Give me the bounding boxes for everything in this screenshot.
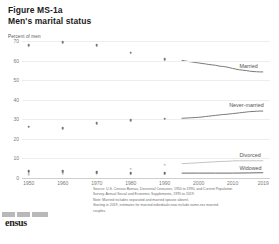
figure-container: Figure MS-1a Men's marital status Percen…	[0, 0, 279, 244]
y-axis-tick-label: 30	[13, 116, 19, 122]
gridline	[22, 100, 270, 101]
data-point-marker	[163, 58, 166, 61]
gridline	[22, 158, 270, 159]
footnote-block: Source: U.S. Census Bureau, Decennial Ce…	[93, 187, 277, 214]
page-title: Men's marital status	[8, 16, 91, 27]
series-line	[182, 161, 264, 164]
y-axis-tick-label: 70	[13, 38, 19, 44]
data-point-marker	[129, 167, 132, 170]
y-axis-tick-label: 40	[13, 97, 19, 103]
y-axis-tick-label: 60	[13, 58, 19, 64]
gridline	[22, 139, 270, 140]
data-point-marker	[95, 122, 98, 125]
x-axis-tick-label: 1960	[57, 180, 68, 186]
title-block: Figure MS-1a Men's marital status	[8, 5, 91, 27]
data-point-marker	[61, 127, 64, 130]
y-axis-tick-label: 20	[13, 136, 19, 142]
census-bureau-logo: ensus	[2, 212, 62, 234]
data-point-marker	[27, 44, 30, 47]
gridline	[22, 41, 270, 42]
data-point-marker	[129, 119, 132, 122]
x-axis-tick-label: 2000	[193, 180, 204, 186]
x-axis-tick-label: 2019	[258, 180, 269, 186]
gridline	[22, 119, 270, 120]
data-point-marker	[95, 171, 98, 174]
logo-wordmark: ensus	[5, 217, 27, 228]
series-label-never-married: Never-married	[229, 102, 263, 108]
x-axis-tick-label: 2010	[227, 180, 238, 186]
data-point-marker	[27, 125, 30, 128]
data-point-marker	[27, 173, 30, 176]
series-label-divorced: Divorced	[239, 152, 260, 158]
data-point-marker	[129, 172, 132, 175]
gridline	[22, 80, 270, 81]
data-point-marker	[95, 44, 98, 47]
series-label-widowed: Widowed	[239, 165, 261, 171]
y-axis-tick-label: 10	[13, 155, 19, 161]
x-axis-tick-label: 1990	[159, 180, 170, 186]
x-axis-tick-label: 1980	[125, 180, 136, 186]
gridline	[22, 61, 270, 62]
y-axis-tick-label: 0	[16, 175, 19, 181]
x-axis-tick-label: 1970	[91, 180, 102, 186]
axis-baseline	[22, 178, 270, 179]
plot-area: 0102030405060701950196019701980199020002…	[22, 41, 270, 178]
series-label-married: Married	[239, 63, 257, 69]
footnote-note-3: couples.	[93, 209, 277, 214]
data-point-marker	[129, 51, 132, 54]
data-point-marker	[163, 164, 166, 167]
data-point-marker	[163, 172, 166, 175]
data-point-marker	[27, 170, 30, 173]
series-line	[182, 111, 264, 118]
data-point-marker	[163, 118, 166, 121]
figure-number: Figure MS-1a	[8, 5, 91, 16]
x-axis-tick-label: 1950	[23, 180, 34, 186]
y-axis-tick-label: 50	[13, 77, 19, 83]
data-point-marker	[61, 170, 64, 173]
data-point-marker	[61, 41, 64, 44]
